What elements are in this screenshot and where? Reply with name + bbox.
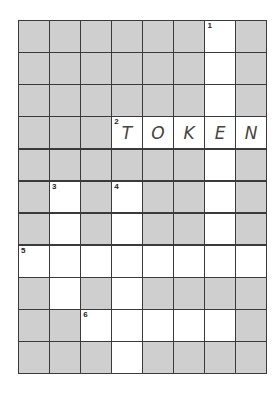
clue-number: 5: [21, 247, 25, 255]
block-cell-r2c4: [143, 85, 173, 116]
open-cell-r3c3[interactable]: 2T: [112, 117, 142, 148]
block-cell-r5c0: [19, 182, 49, 213]
open-cell-r8c1[interactable]: [50, 278, 80, 309]
open-cell-r7c6[interactable]: [205, 246, 235, 277]
clue-number: 3: [52, 183, 56, 191]
block-cell-r8c2: [81, 278, 111, 309]
block-cell-r5c5: [174, 182, 204, 213]
cell-letter: E: [205, 117, 235, 148]
open-cell-r3c5[interactable]: K: [174, 117, 204, 148]
open-cell-r7c3[interactable]: [112, 246, 142, 277]
block-cell-r10c2: [81, 342, 111, 373]
block-cell-r5c4: [143, 182, 173, 213]
block-cell-r1c1: [50, 53, 80, 84]
block-cell-r6c2: [81, 214, 111, 245]
block-cell-r8c5: [174, 278, 204, 309]
open-cell-r9c4[interactable]: [143, 310, 173, 341]
block-cell-r0c1: [50, 21, 80, 52]
block-cell-r0c3: [112, 21, 142, 52]
block-cell-r10c5: [174, 342, 204, 373]
crossword-grid: 12TOKEN3456: [18, 20, 267, 374]
cell-letter: T: [112, 117, 142, 148]
block-cell-r1c3: [112, 53, 142, 84]
block-cell-r2c2: [81, 85, 111, 116]
block-cell-r5c7: [236, 182, 266, 213]
block-cell-r3c0: [19, 117, 49, 148]
block-cell-r4c3: [112, 150, 142, 181]
block-cell-r8c0: [19, 278, 49, 309]
block-cell-r2c1: [50, 85, 80, 116]
block-cell-r1c2: [81, 53, 111, 84]
open-cell-r7c7[interactable]: [236, 246, 266, 277]
open-cell-r4c6[interactable]: [205, 150, 235, 181]
clue-number: 4: [114, 183, 118, 191]
clue-number: 6: [83, 311, 87, 319]
block-cell-r0c4: [143, 21, 173, 52]
block-cell-r6c5: [174, 214, 204, 245]
open-cell-r3c4[interactable]: O: [143, 117, 173, 148]
open-cell-r7c1[interactable]: [50, 246, 80, 277]
block-cell-r4c5: [174, 150, 204, 181]
open-cell-r9c2[interactable]: 6: [81, 310, 111, 341]
block-cell-r1c0: [19, 53, 49, 84]
block-cell-r6c4: [143, 214, 173, 245]
open-cell-r7c0[interactable]: 5: [19, 246, 49, 277]
block-cell-r8c4: [143, 278, 173, 309]
block-cell-r3c2: [81, 117, 111, 148]
block-cell-r2c3: [112, 85, 142, 116]
open-cell-r6c3[interactable]: [112, 214, 142, 245]
open-cell-r5c6[interactable]: [205, 182, 235, 213]
open-cell-r7c5[interactable]: [174, 246, 204, 277]
block-cell-r9c0: [19, 310, 49, 341]
open-cell-r5c1[interactable]: 3: [50, 182, 80, 213]
block-cell-r0c5: [174, 21, 204, 52]
block-cell-r0c2: [81, 21, 111, 52]
block-cell-r1c4: [143, 53, 173, 84]
block-cell-r10c4: [143, 342, 173, 373]
open-cell-r1c6[interactable]: [205, 53, 235, 84]
block-cell-r9c7: [236, 310, 266, 341]
block-cell-r2c0: [19, 85, 49, 116]
block-cell-r1c7: [236, 53, 266, 84]
open-cell-r6c1[interactable]: [50, 214, 80, 245]
open-cell-r0c6[interactable]: 1: [205, 21, 235, 52]
block-cell-r8c6: [205, 278, 235, 309]
block-cell-r2c5: [174, 85, 204, 116]
open-cell-r7c2[interactable]: [81, 246, 111, 277]
block-cell-r4c4: [143, 150, 173, 181]
block-cell-r2c7: [236, 85, 266, 116]
block-cell-r4c1: [50, 150, 80, 181]
open-cell-r10c3[interactable]: [112, 342, 142, 373]
block-cell-r4c7: [236, 150, 266, 181]
block-cell-r8c7: [236, 278, 266, 309]
block-cell-r3c1: [50, 117, 80, 148]
open-cell-r5c3[interactable]: 4: [112, 182, 142, 213]
block-cell-r1c5: [174, 53, 204, 84]
open-cell-r9c5[interactable]: [174, 310, 204, 341]
open-cell-r2c6[interactable]: [205, 85, 235, 116]
block-cell-r10c1: [50, 342, 80, 373]
open-cell-r6c6[interactable]: [205, 214, 235, 245]
block-cell-r4c0: [19, 150, 49, 181]
block-cell-r6c7: [236, 214, 266, 245]
block-cell-r10c0: [19, 342, 49, 373]
cell-letter: K: [174, 117, 204, 148]
open-cell-r3c7[interactable]: N: [236, 117, 266, 148]
block-cell-r9c1: [50, 310, 80, 341]
block-cell-r10c6: [205, 342, 235, 373]
block-cell-r10c7: [236, 342, 266, 373]
block-cell-r0c7: [236, 21, 266, 52]
open-cell-r3c6[interactable]: E: [205, 117, 235, 148]
block-cell-r6c0: [19, 214, 49, 245]
cell-letter: O: [143, 117, 173, 148]
block-cell-r4c2: [81, 150, 111, 181]
open-cell-r9c3[interactable]: [112, 310, 142, 341]
open-cell-r8c3[interactable]: [112, 278, 142, 309]
cell-letter: N: [236, 117, 266, 148]
block-cell-r0c0: [19, 21, 49, 52]
open-cell-r9c6[interactable]: [205, 310, 235, 341]
open-cell-r7c4[interactable]: [143, 246, 173, 277]
block-cell-r5c2: [81, 182, 111, 213]
clue-number: 1: [207, 22, 211, 30]
